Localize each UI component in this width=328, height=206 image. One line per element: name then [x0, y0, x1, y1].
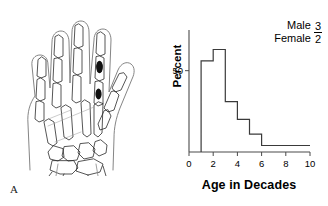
- hand-skeleton-icon: [8, 4, 156, 176]
- panel-a-hand-illustration: A: [0, 0, 164, 206]
- x-axis-ticks: [189, 152, 310, 156]
- histogram-step-outline: [201, 50, 310, 152]
- panel-b-histogram: Male Female 3 2 Percent Age in Decades 0…: [164, 0, 328, 206]
- figure-container: A Male Female 3 2 Percent Age in Decades: [0, 0, 328, 206]
- lesion-marker: [96, 61, 103, 73]
- x-tick-label: 6: [254, 158, 270, 169]
- x-tick-label: 10: [302, 158, 318, 169]
- x-tick-label: 8: [278, 158, 294, 169]
- x-tick-label: 0: [181, 158, 197, 169]
- x-tick-label: 4: [229, 158, 245, 169]
- y-tick-label: 50: [172, 65, 183, 76]
- histogram-plot: [164, 0, 328, 206]
- x-tick-label: 2: [205, 158, 221, 169]
- lesion-marker: [95, 89, 101, 100]
- panel-label-a: A: [10, 183, 18, 195]
